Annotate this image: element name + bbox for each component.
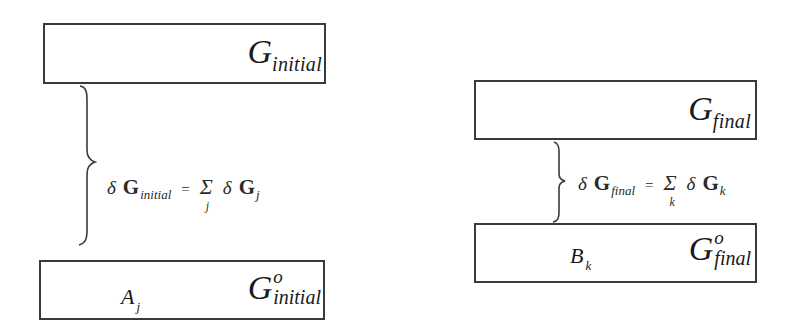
standard-state-superscript: o (273, 268, 321, 286)
g-initial-box: Ginitial (43, 23, 326, 84)
initial-subscript: initial (273, 288, 321, 307)
g-final-standard-label: Gofinal (689, 229, 751, 266)
g-symbol: G (248, 271, 273, 305)
delta-symbol: δ (223, 177, 232, 198)
right-curly-brace-icon (550, 140, 570, 224)
g-symbol: G (688, 90, 713, 127)
species-b-label: Bk (570, 245, 591, 267)
j-subscript: j (136, 299, 140, 314)
g-final-label: Gfinal (688, 92, 751, 126)
equals-sign: = (181, 181, 189, 197)
sum-index-j: j (206, 200, 209, 212)
summation-symbol: Σk (664, 172, 677, 194)
sum-index-k: k (670, 196, 675, 208)
equals-sign: = (645, 177, 653, 193)
final-subscript: final (713, 110, 751, 132)
final-subscript: final (611, 183, 635, 198)
final-subscript: final (714, 249, 751, 268)
g-initial-standard-box: Aj Goinitial (39, 260, 325, 320)
initial-subscript: initial (140, 187, 171, 202)
g-symbol: G (594, 171, 610, 195)
standard-state-superscript: o (714, 229, 751, 247)
initial-subscript: initial (272, 53, 322, 75)
initial-gibbs-sum-equation: δGinitial=ΣjδGj (107, 176, 260, 198)
final-gibbs-sum-equation: δGfinal=ΣkδGk (578, 172, 726, 194)
left-curly-brace-icon (76, 84, 100, 248)
summation-symbol: Σj (200, 176, 213, 198)
g-initial-label: Ginitial (248, 35, 322, 69)
species-a-label: Aj (121, 286, 140, 308)
g-symbol: G (702, 171, 718, 195)
k-subscript: k (720, 183, 726, 198)
k-subscript: k (585, 258, 591, 273)
g-symbol: G (689, 232, 714, 266)
delta-symbol: δ (578, 173, 587, 194)
g-initial-standard-label: Goinitial (248, 268, 321, 305)
g-symbol: G (239, 175, 255, 199)
g-symbol: G (123, 175, 139, 199)
delta-symbol: δ (687, 173, 696, 194)
delta-symbol: δ (107, 177, 116, 198)
g-final-box: Gfinal (474, 80, 757, 140)
j-subscript: j (256, 187, 260, 202)
g-final-standard-box: Bk Gofinal (474, 223, 757, 283)
g-symbol: G (248, 33, 273, 70)
